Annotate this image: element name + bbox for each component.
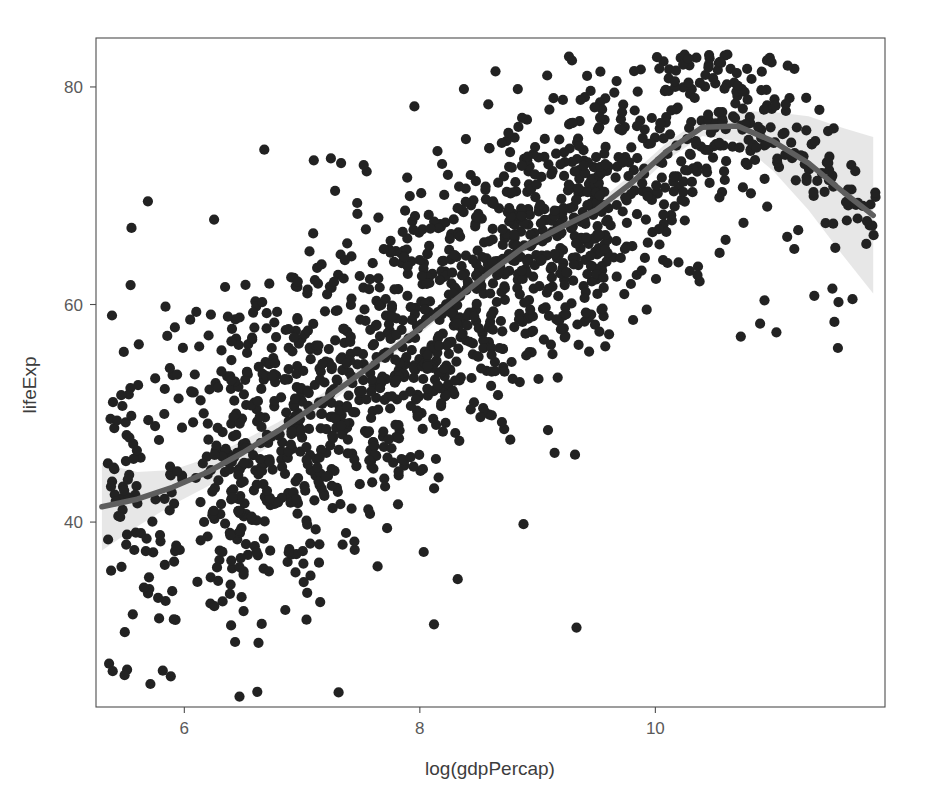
- data-point: [126, 411, 136, 421]
- data-point: [546, 340, 556, 350]
- data-point: [203, 435, 213, 445]
- data-point: [254, 362, 264, 372]
- data-point: [375, 383, 385, 393]
- data-point: [632, 121, 642, 131]
- data-point: [239, 476, 249, 486]
- data-point: [651, 180, 661, 190]
- data-point: [359, 304, 369, 314]
- data-point: [599, 283, 609, 293]
- data-point: [132, 445, 142, 455]
- scatter-plot-figure: 6810 406080 log(gdpPercap) lifeExp: [0, 0, 927, 801]
- data-point: [373, 561, 383, 571]
- data-point: [120, 627, 130, 637]
- data-point: [389, 284, 399, 294]
- data-point: [483, 99, 493, 109]
- data-point: [824, 152, 834, 162]
- data-point: [327, 481, 337, 491]
- data-point: [170, 322, 180, 332]
- data-point: [150, 373, 160, 383]
- data-point: [262, 486, 272, 496]
- data-point: [144, 572, 154, 582]
- data-point: [632, 209, 642, 219]
- data-point: [223, 312, 233, 322]
- data-point: [314, 558, 324, 568]
- data-point: [755, 319, 765, 329]
- data-point: [155, 530, 165, 540]
- data-point: [662, 258, 672, 268]
- data-point: [213, 383, 223, 393]
- data-point: [308, 228, 318, 238]
- data-point: [685, 149, 695, 159]
- data-point: [618, 157, 628, 167]
- data-point: [338, 324, 348, 334]
- data-point: [349, 536, 359, 546]
- data-point: [386, 236, 396, 246]
- data-point: [252, 479, 262, 489]
- data-point: [708, 153, 718, 163]
- data-point: [172, 466, 182, 476]
- data-point: [312, 263, 322, 273]
- data-point: [393, 499, 403, 509]
- data-point: [234, 506, 244, 516]
- data-point: [124, 433, 134, 443]
- data-point: [619, 289, 629, 299]
- data-point: [497, 326, 507, 336]
- data-point: [738, 218, 748, 228]
- data-point: [167, 586, 177, 596]
- data-point: [302, 588, 312, 598]
- data-point: [767, 57, 777, 67]
- x-tick-label: 10: [646, 719, 665, 738]
- data-point: [453, 203, 463, 213]
- data-point: [561, 267, 571, 277]
- data-point: [823, 126, 833, 136]
- data-point: [751, 143, 761, 153]
- data-point: [262, 323, 272, 333]
- data-point: [304, 246, 314, 256]
- data-point: [714, 138, 724, 148]
- data-point: [186, 386, 196, 396]
- data-point: [289, 333, 299, 343]
- data-point: [302, 455, 312, 465]
- data-point: [642, 305, 652, 315]
- data-point: [259, 534, 269, 544]
- data-point: [198, 458, 208, 468]
- data-point: [487, 350, 497, 360]
- data-point: [513, 122, 523, 132]
- data-point: [759, 295, 769, 305]
- data-point: [346, 293, 356, 303]
- data-point: [669, 186, 679, 196]
- data-point: [434, 472, 444, 482]
- data-point: [387, 391, 397, 401]
- x-axis: 6810: [180, 707, 665, 738]
- data-point: [361, 224, 371, 234]
- data-point: [284, 547, 294, 557]
- data-point: [616, 253, 626, 263]
- data-point: [493, 390, 503, 400]
- data-point: [237, 592, 247, 602]
- data-point: [330, 335, 340, 345]
- data-point: [172, 370, 182, 380]
- data-point: [742, 64, 752, 74]
- data-point: [719, 84, 729, 94]
- data-point: [617, 125, 627, 135]
- data-point: [209, 506, 219, 516]
- data-point: [809, 291, 819, 301]
- data-point: [759, 105, 769, 115]
- data-point: [828, 219, 838, 229]
- data-point: [188, 417, 198, 427]
- data-point: [240, 280, 250, 290]
- data-point: [301, 442, 311, 452]
- data-point: [600, 159, 610, 169]
- data-point: [298, 546, 308, 556]
- data-point: [413, 412, 423, 422]
- data-point: [756, 85, 766, 95]
- data-point: [216, 345, 226, 355]
- data-point: [643, 238, 653, 248]
- x-tick-label: 8: [415, 719, 424, 738]
- data-point: [606, 220, 616, 230]
- data-point: [126, 280, 136, 290]
- data-point: [374, 301, 384, 311]
- data-point: [569, 259, 579, 269]
- data-point: [680, 165, 690, 175]
- data-point: [789, 244, 799, 254]
